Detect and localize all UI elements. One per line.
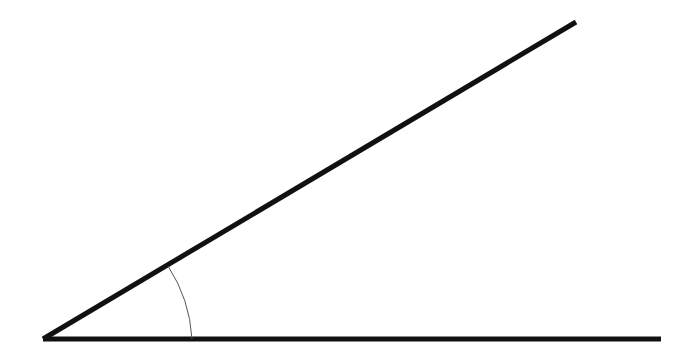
angle-diagram <box>0 0 698 360</box>
upper-ray <box>43 22 576 339</box>
angle-arc <box>168 266 192 339</box>
